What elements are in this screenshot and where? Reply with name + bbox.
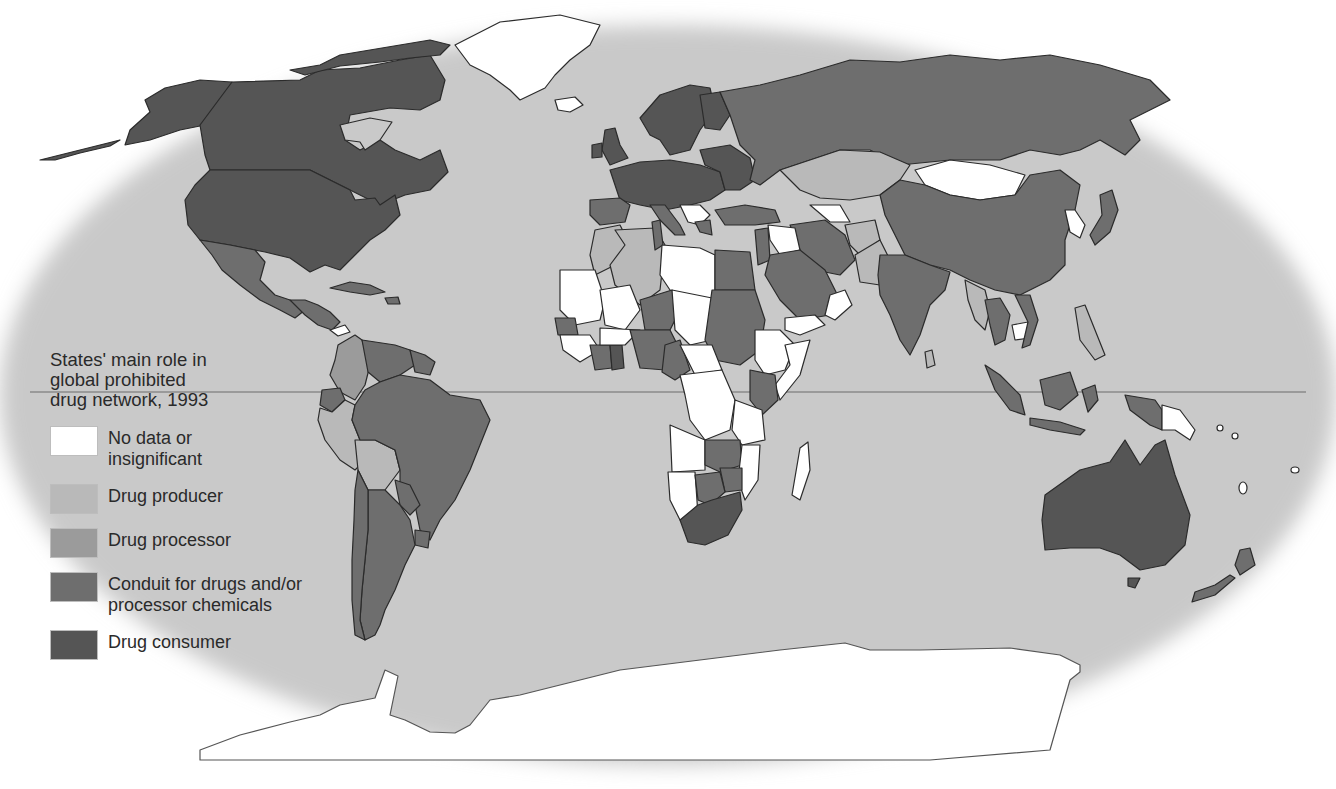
legend-item-conduit: Conduit for drugs and/or processor chemi…	[50, 572, 370, 616]
legend-swatch-conduit	[50, 572, 98, 602]
legend-label: Drug processor	[108, 528, 231, 551]
uruguay	[415, 530, 430, 548]
legend-label: Drug producer	[108, 484, 223, 507]
legend-label: Conduit for drugs and/or processor chemi…	[108, 572, 302, 616]
legend-title-line: States' main role in	[50, 350, 370, 370]
israel-jordan	[755, 228, 770, 265]
egypt	[715, 250, 755, 290]
legend-title: States' main role in global prohibited d…	[50, 350, 370, 410]
legend-label: No data or insignificant	[108, 426, 202, 470]
pacific-island	[1217, 425, 1223, 431]
ireland	[592, 143, 602, 158]
legend-title-line: drug network, 1993	[50, 390, 370, 410]
legend-item-none: No data or insignificant	[50, 426, 370, 470]
legend-title-line: global prohibited	[50, 370, 370, 390]
ghana	[610, 345, 624, 370]
pacific-island	[1291, 467, 1299, 473]
western-sahara-mauritania	[560, 270, 605, 325]
legend-swatch-producer	[50, 484, 98, 514]
legend-label: Drug consumer	[108, 630, 231, 653]
legend-swatch-processor	[50, 528, 98, 558]
legend: States' main role in global prohibited d…	[50, 350, 370, 674]
zambia	[705, 440, 742, 472]
legend-item-consumer: Drug consumer	[50, 630, 370, 660]
legend-item-processor: Drug processor	[50, 528, 370, 558]
legend-item-producer: Drug producer	[50, 484, 370, 514]
pacific-island	[1239, 482, 1247, 494]
iberia	[590, 198, 630, 225]
legend-swatch-consumer	[50, 630, 98, 660]
legend-swatch-none	[50, 426, 98, 456]
senegal	[555, 318, 578, 335]
pacific-island	[1232, 433, 1238, 439]
